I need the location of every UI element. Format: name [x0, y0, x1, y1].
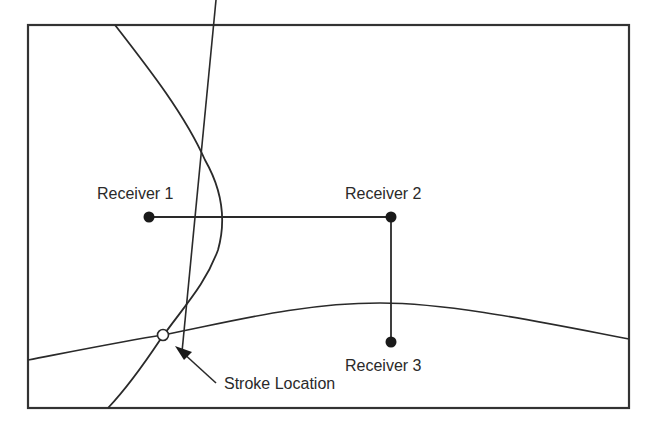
- stroke-location-label: Stroke Location: [224, 376, 335, 392]
- lightning-location-diagram: [0, 0, 647, 430]
- receiver-3-label: Receiver 3: [345, 358, 421, 374]
- receiver-2-marker: [386, 212, 397, 223]
- stroke-location-marker: [158, 330, 169, 341]
- receiver-1-label: Receiver 1: [97, 186, 173, 202]
- hyperbola-r2-r3: [28, 303, 629, 360]
- receiver-3-marker: [386, 337, 397, 348]
- receiver-1-marker: [144, 212, 155, 223]
- receiver-2-label: Receiver 2: [345, 186, 421, 202]
- arrow-shaft: [182, 0, 216, 352]
